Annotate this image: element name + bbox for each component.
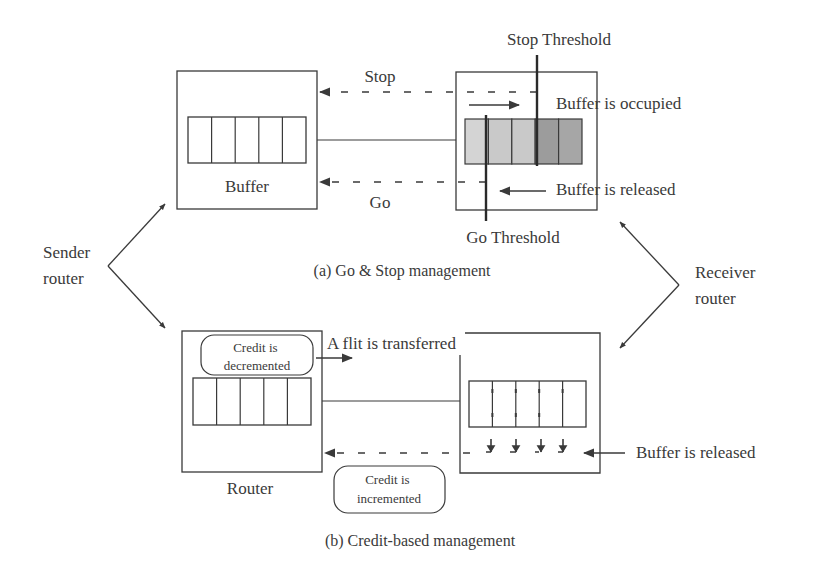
stop-label: Stop — [364, 67, 395, 86]
router-label: Router — [227, 479, 274, 498]
sender-buffer-b — [193, 378, 311, 425]
stop-threshold-label: Stop Threshold — [507, 30, 612, 49]
flit-transferred-label: A flit is transferred — [327, 334, 456, 353]
sender-buffer-a — [188, 117, 306, 163]
caption-b: (b) Credit-based management — [325, 532, 516, 550]
buffer-released-label-b: Buffer is released — [636, 443, 756, 462]
buffer-occupied-label: Buffer is occupied — [556, 94, 682, 113]
receiver-buffer-a — [465, 119, 582, 164]
panel-credit-based: Credit is decremented Router A flit is t… — [182, 331, 756, 550]
sender-buffer-label: Buffer — [225, 177, 269, 196]
buffer-released-label-a: Buffer is released — [556, 180, 676, 199]
credit-incremented-bubble: Credit is incremented — [334, 466, 445, 513]
receiver-buffer-b — [469, 381, 586, 427]
receiver-router-label: Receiver router — [695, 263, 760, 308]
caption-a: (a) Go & Stop management — [314, 262, 491, 280]
receiver-router-pointer: Receiver router — [620, 222, 760, 348]
sender-router-label: Sender router — [43, 243, 94, 288]
go-label: Go — [370, 193, 391, 212]
panel-go-stop: Buffer Stop Go Stop Threshold Go Thresho… — [177, 30, 682, 280]
flow-control-diagram: Buffer Stop Go Stop Threshold Go Thresho… — [0, 0, 825, 576]
release-arrows — [486, 439, 566, 452]
sender-router-pointer: Sender router — [43, 204, 165, 328]
credit-decremented-bubble: Credit is decremented — [201, 335, 313, 375]
receiver-router-box-b — [460, 333, 600, 473]
go-threshold-label: Go Threshold — [466, 228, 560, 247]
